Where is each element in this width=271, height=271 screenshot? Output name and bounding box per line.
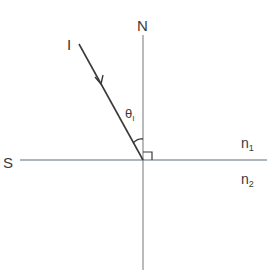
normal-label: N xyxy=(137,17,148,34)
medium1-label: n1 xyxy=(241,135,254,153)
medium2-subscript: 2 xyxy=(249,179,254,189)
medium2-symbol: n xyxy=(241,171,249,187)
medium1-symbol: n xyxy=(241,135,249,151)
surface-label: S xyxy=(3,154,13,171)
medium1-subscript: 1 xyxy=(249,143,254,153)
right-angle-marker xyxy=(143,152,152,160)
angle-arc xyxy=(133,139,143,143)
incident-label: I xyxy=(67,36,71,53)
refraction-diagram: N I S θI n1 n2 xyxy=(0,0,271,271)
angle-label: θI xyxy=(125,106,134,123)
medium2-label: n2 xyxy=(241,171,254,189)
angle-symbol: θ xyxy=(125,106,132,121)
angle-subscript: I xyxy=(132,114,134,123)
